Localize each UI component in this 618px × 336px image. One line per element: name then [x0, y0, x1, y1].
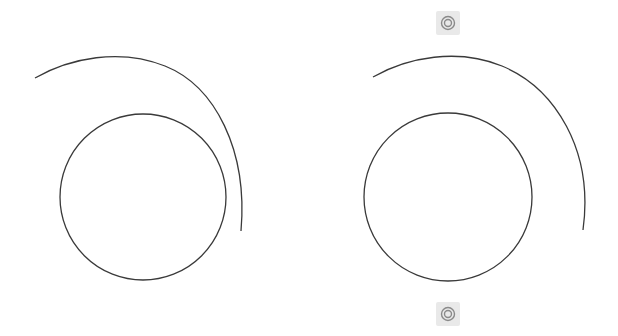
- inner-circle-left[interactable]: [60, 114, 226, 280]
- grip-handle-bottom[interactable]: [436, 302, 460, 326]
- outer-arc-right[interactable]: [373, 56, 585, 230]
- figure-right: [364, 56, 585, 281]
- drawing-canvas: [0, 0, 618, 336]
- figure-left: [35, 57, 242, 280]
- outer-arc-left[interactable]: [35, 57, 242, 231]
- concentric-circles-icon: [439, 305, 457, 323]
- inner-circle-right[interactable]: [364, 113, 532, 281]
- concentric-circles-icon: [439, 14, 457, 32]
- grip-handle-top[interactable]: [436, 11, 460, 35]
